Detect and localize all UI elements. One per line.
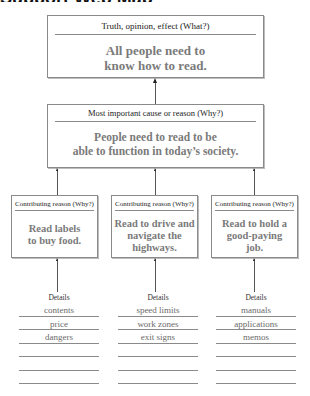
details-list-1: Details contents price dangers — [19, 293, 99, 384]
details-1-line[interactable] — [19, 357, 99, 371]
details-3-line[interactable]: applications — [216, 317, 296, 331]
arrowhead-up-icon — [253, 168, 255, 171]
details-list-3: Details manuals applications memos — [216, 293, 296, 384]
details-2-line[interactable] — [118, 344, 198, 358]
details-list-2: Details speed limits work zones exit sig… — [118, 293, 198, 384]
details-1-line[interactable]: price — [19, 317, 99, 331]
most-important-cause-box: Most important cause or reason (Why?) Pe… — [47, 104, 264, 168]
middle-box-text-line1: People need to read to be — [48, 130, 263, 144]
arrowhead-up-icon — [56, 168, 58, 171]
reason-2-text-line2: navigate the — [112, 230, 197, 242]
connector-details-3-to-reason-3 — [254, 259, 255, 292]
reason-3-text-line1: Read to hold a — [212, 218, 297, 230]
arrowhead-up-icon — [153, 78, 157, 83]
middle-box-text-line2: able to function in today’s society. — [48, 144, 263, 158]
details-3-line[interactable] — [216, 344, 296, 358]
reason-1-text: Read labels to buy food. — [12, 223, 97, 247]
connector-right-to-middle — [254, 169, 255, 195]
top-box-text-line2: know how to read. — [48, 58, 263, 73]
reason-1-divider — [15, 210, 94, 211]
connector-left-to-middle — [57, 169, 58, 195]
details-2-line[interactable]: exit signs — [118, 330, 198, 344]
middle-box-label: Most important cause or reason (Why?) — [48, 108, 263, 118]
truth-opinion-effect-box: Truth, opinion, effect (What?) All peopl… — [47, 15, 264, 78]
reason-3-text-line2: good-paying — [212, 230, 297, 242]
reason-2-text-line3: highways. — [112, 242, 197, 254]
details-1-line[interactable] — [19, 344, 99, 358]
details-3-line[interactable]: manuals — [216, 303, 296, 317]
reason-2-text: Read to drive and navigate the highways. — [112, 218, 197, 254]
top-box-text-line1: All people need to — [48, 43, 263, 58]
top-box-divider — [55, 34, 256, 35]
arrowhead-up-icon — [154, 258, 156, 261]
reason-3-text: Read to hold a good-paying job. — [212, 218, 297, 254]
reason-3-text-line3: job. — [212, 242, 297, 254]
details-3-line[interactable]: memos — [216, 330, 296, 344]
details-2-line[interactable]: speed limits — [118, 303, 198, 317]
reason-2-divider — [115, 210, 194, 211]
details-3-line[interactable] — [216, 371, 296, 385]
details-2-line[interactable] — [118, 371, 198, 385]
details-1-label: Details — [19, 293, 99, 303]
details-2-label: Details — [118, 293, 198, 303]
contributing-reason-box-2: Contributing reason (Why?) Read to drive… — [111, 195, 198, 258]
details-1-line[interactable]: dangers — [19, 330, 99, 344]
reason-3-divider — [215, 210, 294, 211]
top-box-label: Truth, opinion, effect (What?) — [48, 21, 263, 31]
details-1-line[interactable]: contents — [19, 303, 99, 317]
arrowhead-up-icon — [154, 168, 156, 171]
reason-2-label: Contributing reason (Why?) — [112, 200, 197, 208]
details-2-line[interactable]: work zones — [118, 317, 198, 331]
contributing-reason-box-3: Contributing reason (Why?) Read to hold … — [211, 195, 298, 258]
reason-1-label: Contributing reason (Why?) — [12, 200, 97, 208]
connector-details-2-to-reason-2 — [155, 259, 156, 292]
middle-box-text: People need to read to be able to functi… — [48, 130, 263, 158]
reason-2-text-line1: Read to drive and — [112, 218, 197, 230]
details-3-line[interactable] — [216, 357, 296, 371]
connector-center-to-middle — [155, 169, 156, 195]
connector-middle-to-top — [155, 80, 156, 104]
page-title-cropped: Support Web Map — [0, 0, 310, 2]
middle-box-divider — [55, 121, 256, 122]
reason-1-text-line1: Read labels — [12, 223, 97, 235]
details-1-line[interactable] — [19, 371, 99, 385]
top-box-text: All people need to know how to read. — [48, 43, 263, 73]
details-3-label: Details — [216, 293, 296, 303]
reason-3-label: Contributing reason (Why?) — [212, 200, 297, 208]
arrowhead-up-icon — [56, 258, 58, 261]
reason-1-text-line2: to buy food. — [12, 235, 97, 247]
details-2-line[interactable] — [118, 357, 198, 371]
connector-details-1-to-reason-1 — [57, 259, 58, 292]
contributing-reason-box-1: Contributing reason (Why?) Read labels t… — [11, 195, 98, 258]
arrowhead-up-icon — [253, 258, 255, 261]
